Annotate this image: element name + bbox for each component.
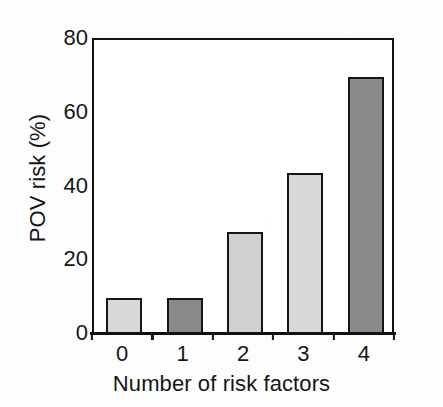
x-axis-ticks xyxy=(92,333,394,341)
y-tick-label: 0 xyxy=(20,322,88,344)
x-axis-tick-labels: 01234 xyxy=(92,342,394,372)
bar xyxy=(287,173,323,335)
x-tick-label: 3 xyxy=(283,342,323,366)
x-tick-label: 0 xyxy=(102,342,142,366)
x-tick-mark xyxy=(272,333,274,340)
x-tick-mark xyxy=(151,333,153,340)
y-tick-label: 60 xyxy=(20,101,88,123)
bar xyxy=(227,232,263,335)
y-tick-label: 20 xyxy=(20,248,88,270)
bars-container xyxy=(94,40,396,335)
plot-area xyxy=(92,38,394,333)
x-tick-mark xyxy=(212,333,214,340)
x-tick-mark xyxy=(333,333,335,340)
x-tick-label: 1 xyxy=(163,342,203,366)
chart-figure: POV risk (%) 020406080 01234 Number of r… xyxy=(0,0,443,407)
y-tick-label: 80 xyxy=(20,27,88,49)
bar xyxy=(167,298,203,335)
x-tick-label: 2 xyxy=(223,342,263,366)
x-tick-mark xyxy=(393,333,395,340)
x-tick-mark xyxy=(91,333,93,340)
x-axis-title: Number of risk factors xyxy=(0,371,443,397)
bar xyxy=(348,77,384,335)
bar xyxy=(106,298,142,335)
y-tick-label: 40 xyxy=(20,175,88,197)
x-tick-label: 4 xyxy=(344,342,384,366)
y-axis-tick-labels: 020406080 xyxy=(20,0,88,407)
